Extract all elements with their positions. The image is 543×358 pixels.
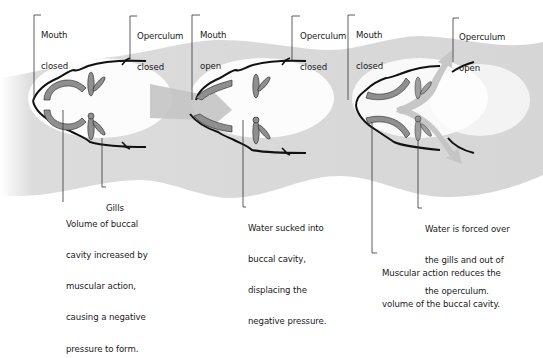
label-mouth-closed-1: Mouth closed xyxy=(41,9,68,82)
label-mouth-open-2: Mouth open xyxy=(200,9,226,82)
gill-lower xyxy=(253,120,259,144)
gill-lower-knob xyxy=(88,113,94,119)
label-operculum-closed-1: Operculum closed xyxy=(137,10,183,83)
gill-upper xyxy=(415,77,421,99)
label-muscular-action-3: Muscular action reduces the volume of th… xyxy=(382,247,501,320)
gill-lower-knob xyxy=(253,117,259,123)
gill-lower xyxy=(415,119,421,141)
label-water-sucked-2: Water sucked into buccal cavity, displac… xyxy=(248,202,326,337)
label-operculum-closed-2: Operculum closed xyxy=(300,10,346,83)
gill-lower xyxy=(88,116,94,140)
label-mouth-closed-3: Mouth closed xyxy=(356,9,383,82)
gill-lower-knob xyxy=(415,116,421,122)
label-buccal-description-1: Volume of buccal cavity increased by mus… xyxy=(66,198,148,358)
gill-upper xyxy=(88,72,94,96)
gill-upper xyxy=(253,74,259,98)
label-operculum-open-3: Operculum open xyxy=(459,11,505,84)
